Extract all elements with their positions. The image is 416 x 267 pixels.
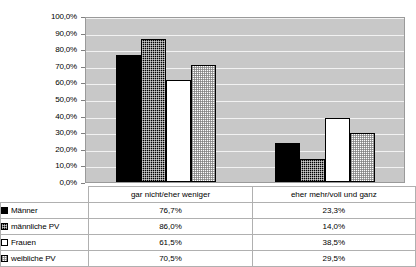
value-cell-0-1: 23,3% bbox=[252, 203, 415, 219]
y-axis-tick-label: 60,0% bbox=[55, 79, 77, 87]
bar bbox=[191, 65, 216, 182]
y-axis-tick-label: 10,0% bbox=[55, 162, 77, 170]
y-axis-tick-label: 70,0% bbox=[55, 63, 77, 71]
chart-title-strip bbox=[0, 0, 416, 12]
value-cell-2-1: 38,5% bbox=[252, 235, 415, 251]
value-cell-3-0: 70,5% bbox=[89, 251, 252, 267]
bar bbox=[166, 80, 191, 182]
category-header-0: gar nicht/eher weniger bbox=[89, 187, 252, 203]
legend-swatch-icon-0 bbox=[1, 207, 8, 214]
y-axis-tick-label: 90,0% bbox=[55, 30, 77, 38]
legend-label-3: weibliche PV bbox=[11, 254, 56, 263]
bar bbox=[325, 118, 350, 182]
table-row: Frauen 61,5% 38,5% bbox=[1, 235, 416, 251]
legend-label-2: Frauen bbox=[11, 238, 36, 247]
y-axis-tick-label: 100,0% bbox=[51, 13, 77, 21]
bar bbox=[275, 143, 300, 182]
value-cell-2-0: 61,5% bbox=[89, 235, 252, 251]
value-cell-0-0: 76,7% bbox=[89, 203, 252, 219]
table-header-row: gar nicht/eher weniger eher mehr/voll un… bbox=[1, 187, 416, 203]
y-axis-tick-label: 80,0% bbox=[55, 46, 77, 54]
y-axis: 0,0%10,0%20,0%30,0%40,0%50,0%60,0%70,0%8… bbox=[0, 12, 80, 188]
y-axis-tick-mark bbox=[81, 183, 85, 184]
bar bbox=[141, 39, 166, 182]
legend-label-0: Männer bbox=[11, 206, 38, 215]
y-axis-tick-label: 30,0% bbox=[55, 129, 77, 137]
y-axis-tick-label: 40,0% bbox=[55, 113, 77, 121]
legend-item-1: männliche PV bbox=[1, 219, 89, 235]
bar bbox=[350, 133, 375, 182]
plot-area bbox=[85, 17, 405, 183]
bar bbox=[300, 159, 325, 182]
legend-swatch-icon-3 bbox=[1, 255, 8, 262]
bar bbox=[116, 55, 141, 182]
y-axis-tick-label: 50,0% bbox=[55, 96, 77, 104]
table-row: weibliche PV 70,5% 29,5% bbox=[1, 251, 416, 267]
plot-region: 0,0%10,0%20,0%30,0%40,0%50,0%60,0%70,0%8… bbox=[0, 12, 416, 188]
legend-swatch-icon-1 bbox=[1, 223, 8, 230]
legend-item-2: Frauen bbox=[1, 235, 89, 251]
legend-corner-cell bbox=[1, 187, 89, 203]
y-axis-tick-label: 20,0% bbox=[55, 146, 77, 154]
legend-label-1: männliche PV bbox=[11, 222, 59, 231]
legend-swatch-icon-2 bbox=[1, 239, 8, 246]
value-cell-3-1: 29,5% bbox=[252, 251, 415, 267]
table-row: Männer 76,7% 23,3% bbox=[1, 203, 416, 219]
data-table: gar nicht/eher weniger eher mehr/voll un… bbox=[0, 186, 416, 267]
table-row: männliche PV 86,0% 14,0% bbox=[1, 219, 416, 235]
category-header-1: eher mehr/voll und ganz bbox=[252, 187, 415, 203]
bars-layer bbox=[86, 18, 404, 182]
legend-item-0: Männer bbox=[1, 203, 89, 219]
value-cell-1-1: 14,0% bbox=[252, 219, 415, 235]
legend-item-3: weibliche PV bbox=[1, 251, 89, 267]
value-cell-1-0: 86,0% bbox=[89, 219, 252, 235]
